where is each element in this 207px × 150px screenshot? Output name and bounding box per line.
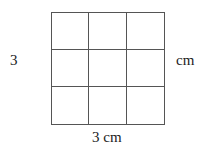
grid-cell: [52, 87, 89, 124]
grid-cell: [89, 87, 126, 124]
grid-cell: [89, 50, 126, 87]
grid-cell: [127, 13, 164, 50]
grid-cell: [127, 50, 164, 87]
grid-cell: [52, 13, 89, 50]
grid-cell: [89, 13, 126, 50]
side-length-unit: cm: [176, 53, 194, 68]
grid-cell: [127, 87, 164, 124]
side-length-value: 3: [10, 53, 18, 68]
square-grid-3x3: [51, 12, 165, 125]
grid-cell: [52, 50, 89, 87]
bottom-length-label: 3 cm: [92, 130, 122, 145]
